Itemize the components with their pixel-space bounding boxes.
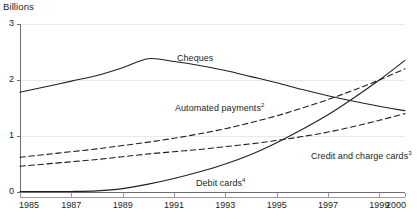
series-line-automated-payments — [20, 69, 405, 157]
series-label-automated-payments: Automated payments2 — [175, 103, 264, 113]
series-label-cheques: Cheques — [177, 53, 213, 63]
series-label-debit-cards: Debit cards4 — [196, 178, 245, 188]
series-label-credit-and-charge-cards: Credit and charge cards3 — [311, 151, 412, 161]
line-chart: Billions 0123 19851987198919911993199519… — [0, 0, 417, 219]
footnote-marker: 4 — [242, 177, 245, 183]
footnote-marker: 2 — [261, 102, 264, 108]
footnote-marker: 3 — [408, 150, 411, 156]
